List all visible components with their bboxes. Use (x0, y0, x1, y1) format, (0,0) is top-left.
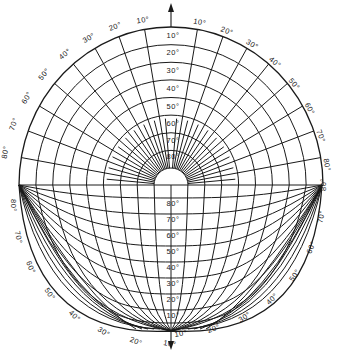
upper-ring-label: 50° (167, 102, 180, 111)
rim-label-upper-right: 80° (322, 158, 333, 172)
rim-label-lower-left: 80° (9, 199, 18, 212)
upper-ring-label: 80° (167, 152, 180, 161)
upper-ring-label: 40° (167, 84, 180, 93)
projection-grid-diagram: 10°20°30°40°50°60°70°80°80°70°60°50°40°3… (0, 0, 342, 352)
rim-label-lower-right: 40° (264, 291, 279, 306)
lower-row-label: 80° (167, 199, 180, 208)
rim-label-upper-left: 10° (136, 14, 150, 25)
rim-label-upper-left: 50° (36, 66, 51, 82)
lower-meridian-arc (171, 185, 255, 331)
upper-spoke (188, 158, 321, 182)
rim-label-lower-left: 30° (96, 325, 112, 340)
upper-minor-spoke (188, 179, 235, 183)
lower-row-label: 50° (167, 247, 180, 256)
upper-spoke (145, 29, 168, 168)
rim-label-lower-right: 50° (287, 267, 302, 283)
rim-label-upper-right: 60° (303, 101, 317, 117)
rim-label-upper-left: 80° (0, 145, 11, 159)
rim-label-upper-right: 50° (287, 76, 302, 92)
upper-spoke (39, 106, 156, 177)
upper-spoke (21, 158, 154, 182)
rim-label-lower-left: 40° (67, 308, 82, 323)
rim-label-upper-left: 20° (108, 20, 123, 33)
rim-label-lower-left: 20° (128, 335, 143, 348)
lower-row-label: 70° (167, 215, 180, 224)
lower-meridian-arc (103, 185, 171, 331)
rim-label-lower-right: 70° (315, 210, 326, 224)
rim-label-lower-left: 60° (24, 260, 37, 275)
rim-label-lower-right: 20° (206, 322, 221, 335)
upper-ring-label: 70° (167, 136, 180, 145)
upper-spoke (186, 106, 303, 177)
lower-row-label: 10° (167, 311, 180, 320)
rim-label-lower-left: 70° (13, 230, 24, 244)
rim-label-upper-left: 30° (81, 31, 97, 45)
rim-label-upper-left: 70° (7, 116, 20, 131)
rim-label-lower-right: 80° (319, 178, 328, 191)
upper-spoke (180, 48, 248, 170)
grid-labels: 10°20°30°40°50°60°70°80°80°70°60°50°40°3… (0, 14, 333, 349)
lower-row-label: 30° (167, 279, 180, 288)
lower-row-label: 40° (167, 263, 180, 272)
rim-label-lower-left: 50° (43, 286, 58, 302)
lower-meridian-arc (87, 185, 171, 331)
upper-ring-label: 60° (167, 119, 180, 128)
rim-label-upper-left: 60° (20, 90, 34, 106)
rim-label-lower-right: 60° (305, 240, 318, 255)
lower-meridian-arc (171, 185, 239, 331)
rim-label-upper-right: 40° (267, 55, 283, 70)
upper-minor-spoke (107, 179, 154, 183)
north-arrow-icon (168, 3, 174, 12)
rim-label-lower-right: 10° (174, 328, 188, 339)
lower-row-label: 20° (167, 295, 180, 304)
lower-row-label: 60° (167, 231, 180, 240)
rim-label-upper-right: 10° (193, 17, 207, 28)
rim-label-upper-left: 40° (57, 46, 73, 61)
upper-spoke (95, 48, 163, 170)
upper-ring-label: 30° (167, 66, 180, 75)
rim-label-upper-right: 70° (314, 128, 327, 143)
upper-ring-label: 20° (167, 48, 180, 57)
upper-ring-label: 10° (167, 31, 180, 40)
